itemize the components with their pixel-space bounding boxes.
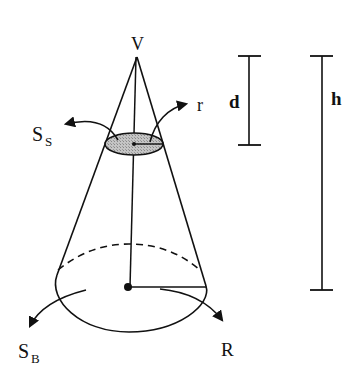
small-center-dot xyxy=(132,142,136,146)
base-subscript: B xyxy=(31,351,40,366)
r-base-pointer-arrow xyxy=(160,289,222,320)
base-radius-label: R xyxy=(221,339,234,360)
small-section-subscript: S xyxy=(45,134,52,149)
base-label: S xyxy=(18,340,29,362)
cone-left-edge xyxy=(57,57,137,275)
apex-label: V xyxy=(131,34,144,54)
cone-axis xyxy=(130,57,136,287)
small-radius-label: r xyxy=(197,95,203,115)
height-label: h xyxy=(331,88,342,109)
base-center-dot xyxy=(124,283,132,291)
small-section-label: S xyxy=(32,123,43,145)
base-ellipse-front xyxy=(55,275,206,332)
base-ellipse-back xyxy=(58,244,200,270)
depth-label: d xyxy=(229,91,240,112)
cone-diagram: V r S S S B R d h xyxy=(0,0,358,385)
